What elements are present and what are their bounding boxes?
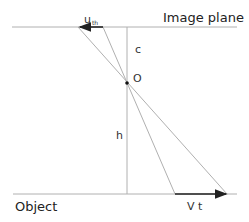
u-subscript: th bbox=[92, 19, 98, 26]
object-displacement-label: V t bbox=[187, 201, 202, 212]
origin-label: O bbox=[133, 73, 142, 84]
diagram-canvas bbox=[0, 0, 249, 222]
u-symbol: u bbox=[84, 13, 91, 26]
ray-outer bbox=[78, 27, 227, 194]
image-plane-label: Image plane bbox=[163, 11, 244, 24]
height-h-label: h bbox=[116, 130, 123, 141]
object-plane-label: Object bbox=[15, 200, 57, 213]
image-displacement-label: uth bbox=[84, 14, 98, 26]
origin-point bbox=[125, 81, 129, 85]
distance-c-label: c bbox=[135, 44, 141, 55]
